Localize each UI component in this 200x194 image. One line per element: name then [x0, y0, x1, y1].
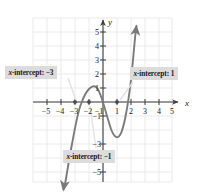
y-axis-label: y	[107, 17, 112, 27]
y-tick-label-2: 2	[95, 70, 99, 79]
x-tick-label--2: −2	[84, 107, 93, 116]
figure-background	[0, 0, 200, 194]
y-tick-label--5: −5	[92, 168, 101, 177]
x-tick-label-3: 3	[143, 107, 147, 116]
y-tick-label-4: 4	[95, 42, 99, 51]
callout-right-text: -intercept: 1	[137, 69, 174, 78]
x-tick-label-5: 5	[170, 107, 174, 116]
x-tick-label-4: 4	[157, 107, 161, 116]
callout-x-intercept-neg1: x-intercept: −1	[63, 150, 115, 163]
callout-x-intercept-1: x-intercept: 1	[130, 67, 178, 80]
cubic-curve-lower-arrow	[63, 183, 64, 190]
x-tick-label--3: −3	[70, 107, 79, 116]
intercept-point-neg3	[73, 100, 77, 104]
x-tick-label-1: 1	[115, 107, 119, 116]
intercept-point-1	[115, 100, 119, 104]
y-tick-label--1: −1	[92, 112, 101, 121]
y-tick-label-5: 5	[95, 28, 99, 37]
x-tick-label--5: −5	[42, 107, 51, 116]
intercept-point-neg1	[87, 100, 91, 104]
x-axis-label: x	[184, 98, 189, 108]
x-tick-label-2: 2	[129, 107, 133, 116]
callout-bottom-text: -intercept: −1	[70, 152, 111, 161]
y-tick-label-1: 1	[95, 84, 99, 93]
x-tick-label--4: −4	[56, 107, 65, 116]
callout-left-text: -intercept: −3	[12, 68, 53, 77]
graph-figure: y x −5 −4 −3 −2 −1 1 2 3 4 5 5 4 3 2 1 −…	[0, 0, 200, 194]
y-tick-label--3: −3	[92, 140, 101, 149]
y-tick-label-3: 3	[95, 56, 99, 65]
callout-x-intercept-neg3: x-intercept: −3	[5, 66, 57, 79]
